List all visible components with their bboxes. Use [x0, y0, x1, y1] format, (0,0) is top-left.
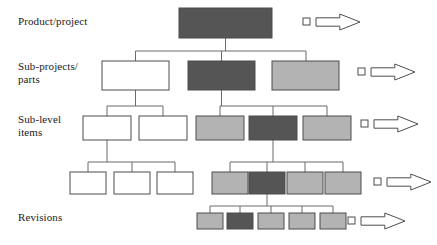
legend-arrow-sublevel-square-icon [361, 120, 368, 127]
row-label-revisions: Revisions [18, 211, 62, 224]
node-revision-1[interactable] [197, 213, 223, 229]
legend-arrow-revisions-right-arrow-icon [361, 213, 405, 229]
product-structure-diagram: Product/projectSub-projects/ partsSub-le… [0, 0, 437, 245]
legend-arrow-subprojects-square-icon [358, 68, 365, 75]
legend-arrow-product-right-arrow-icon [316, 14, 360, 30]
row-label-sublevel: Sub-level items [18, 113, 61, 138]
node-sublevel2-3[interactable] [157, 172, 193, 194]
legend-arrow-revisions[interactable] [348, 213, 405, 229]
legend-arrow-sublevel[interactable] [361, 116, 418, 132]
node-sublevel2-1[interactable] [70, 172, 106, 194]
node-sublevel2-5[interactable] [249, 172, 285, 194]
node-sublevel-1[interactable] [83, 116, 131, 140]
legend-arrow-product[interactable] [303, 14, 360, 30]
node-sublevel-3[interactable] [196, 116, 244, 140]
connector-row4-to-revisions [210, 194, 333, 213]
row-sub-level-items [83, 116, 351, 140]
legend-arrow-product-square-icon [303, 18, 310, 25]
node-revision-4[interactable] [289, 213, 315, 229]
row-sub-projects [102, 61, 339, 90]
node-sublevel2-2[interactable] [114, 172, 150, 194]
legend-arrow-subprojects-right-arrow-icon [371, 64, 415, 80]
connector-sublevel4-to-row4 [230, 140, 343, 172]
legend-arrow-sublevel2-right-arrow-icon [387, 174, 431, 190]
connector-root-to-subprojects [136, 38, 307, 61]
row-sub-level-items-2 [70, 172, 361, 194]
diagram-canvas [0, 0, 437, 245]
node-subproject-2[interactable] [188, 61, 255, 90]
connector-sublevel1-to-row4 [88, 140, 175, 172]
node-revision-5[interactable] [320, 213, 346, 229]
row-label-subprojects: Sub-projects/ parts [18, 60, 78, 85]
row-label-product: Product/project [18, 15, 87, 28]
node-sublevel-2[interactable] [139, 116, 187, 140]
node-sublevel2-7[interactable] [325, 172, 361, 194]
legend-arrow-subprojects[interactable] [358, 64, 415, 80]
node-sublevel2-4[interactable] [212, 172, 248, 194]
node-subproject-3[interactable] [272, 61, 339, 90]
row-revisions [197, 213, 346, 229]
legend-arrow-sublevel2[interactable] [374, 174, 431, 190]
node-revision-3[interactable] [258, 213, 284, 229]
node-sublevel2-6[interactable] [287, 172, 323, 194]
node-subproject-1[interactable] [102, 61, 169, 90]
legend-arrow-sublevel2-square-icon [374, 178, 381, 185]
connector-subproject2-to-sublevel [220, 90, 327, 116]
row-product-project [179, 8, 272, 38]
node-sublevel-5[interactable] [303, 116, 351, 140]
node-sublevel-4[interactable] [249, 116, 297, 140]
legend-arrow-sublevel-right-arrow-icon [374, 116, 418, 132]
node-revision-2[interactable] [227, 213, 253, 229]
node-product-root[interactable] [179, 8, 272, 38]
connector-subproject1-to-sublevel [107, 90, 163, 116]
legend-arrow-revisions-square-icon [348, 217, 355, 224]
